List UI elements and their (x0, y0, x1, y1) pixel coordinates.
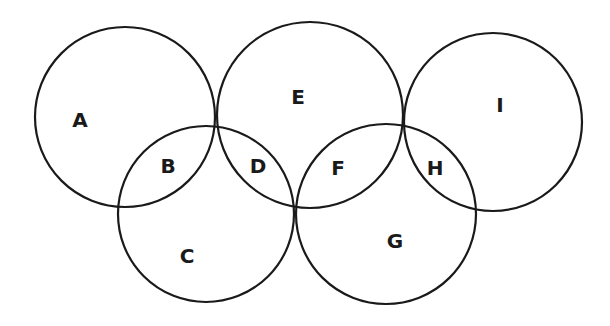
circle-3 (217, 22, 403, 208)
region-label-h: H (427, 156, 444, 180)
region-label-d: D (250, 154, 267, 178)
circles-group (35, 22, 582, 304)
diagram-svg: ABCDEFGHI (0, 0, 610, 326)
region-label-c: C (180, 244, 195, 268)
region-label-g: G (387, 229, 403, 253)
circle-4 (296, 124, 476, 304)
circle-2 (118, 126, 294, 302)
circle-5 (404, 33, 582, 211)
region-label-e: E (291, 85, 305, 109)
region-label-f: F (331, 156, 345, 180)
labels-group: ABCDEFGHI (72, 85, 503, 268)
region-label-b: B (160, 154, 175, 178)
region-label-i: I (496, 93, 503, 117)
venn-diagram: ABCDEFGHI (0, 0, 610, 326)
region-label-a: A (72, 108, 88, 132)
